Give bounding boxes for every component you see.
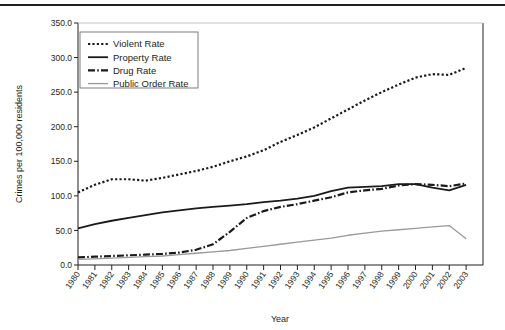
y-tick-label: 350.0 [51,18,73,28]
y-tick-label: 300.0 [51,53,73,63]
chart-svg: 0.050.0100.0150.0200.0250.0300.0350.0 19… [0,0,505,330]
x-tick-label: 1986 [164,269,183,290]
legend-label-drug-rate: Drug Rate [113,65,156,76]
y-tick-label: 150.0 [51,156,73,166]
x-tick-label: 1993 [282,269,301,290]
x-tick-label: 1987 [181,269,200,290]
x-tick-label: 1997 [350,269,369,290]
y-tick-label: 0.0 [60,260,72,270]
x-tick-label: 1981 [80,269,99,290]
y-tick-label: 250.0 [51,87,73,97]
x-tick-label: 1983 [114,269,133,290]
x-tick-label: 1980 [63,269,82,290]
x-tick-label: 2003 [451,269,470,290]
x-tick-label: 1984 [131,269,150,290]
legend-label-property-rate: Property Rate [113,52,172,63]
x-tick-label: 1990 [232,269,251,290]
x-tick-label: 2002 [434,269,453,290]
legend-label-public-order-rate: Public Order Rate [113,78,189,89]
x-tick-label: 1982 [97,269,116,290]
x-axis-tick-marks [78,265,466,270]
chart-legend: Violent RateProperty RateDrug RatePublic… [80,32,198,89]
y-tick-label: 50.0 [55,226,72,236]
x-tick-label: 1992 [266,269,285,290]
series-line-property-rate [78,184,466,228]
y-tick-label: 200.0 [51,122,73,132]
x-tick-label: 1994 [299,269,318,290]
data-series-group [78,68,466,260]
y-axis-tick-marks [74,23,78,265]
x-tick-label: 2001 [417,269,436,290]
x-tick-label: 1989 [215,269,234,290]
x-axis-title: Year [271,314,289,324]
y-axis-title: Crimes per 100,000 residents [14,84,24,203]
x-tick-label: 1988 [198,269,217,290]
x-tick-label: 1998 [367,269,386,290]
x-tick-label: 1985 [147,269,166,290]
x-tick-label: 2000 [401,269,420,290]
y-tick-label: 100.0 [51,191,73,201]
x-tick-label: 1991 [249,269,268,290]
y-axis-tick-labels: 0.050.0100.0150.0200.0250.0300.0350.0 [51,18,73,270]
x-tick-label: 1999 [384,269,403,290]
crime-rate-line-chart: 0.050.0100.0150.0200.0250.0300.0350.0 19… [0,0,505,330]
x-axis-tick-labels: 1980198119821983198419851986198719881989… [63,269,470,290]
x-tick-label: 1996 [333,269,352,290]
series-line-drug-rate [78,183,466,257]
legend-label-violent-rate: Violent Rate [113,38,165,49]
x-tick-label: 1995 [316,269,335,290]
